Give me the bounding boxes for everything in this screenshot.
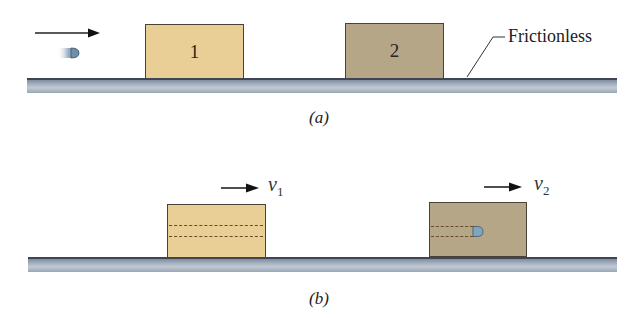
bullet-path-top-2 xyxy=(431,226,473,227)
velocity-2-label: v2 xyxy=(534,172,549,199)
block-2-after xyxy=(429,202,527,257)
caption-b: (b) xyxy=(309,289,329,309)
bullet-path-top xyxy=(169,225,263,226)
v1-symbol: v xyxy=(268,173,277,195)
velocity-1-label: v1 xyxy=(268,173,283,200)
v2-symbol: v xyxy=(534,172,543,194)
frictionless-surface-b xyxy=(28,257,617,272)
v2-subscript: 2 xyxy=(543,183,550,198)
embedded-bullet-icon xyxy=(472,225,486,239)
v1-subscript: 1 xyxy=(277,184,284,199)
block-1-after xyxy=(167,204,266,258)
bullet-path-bottom xyxy=(169,236,263,237)
bullet-path-bottom-2 xyxy=(431,236,473,237)
